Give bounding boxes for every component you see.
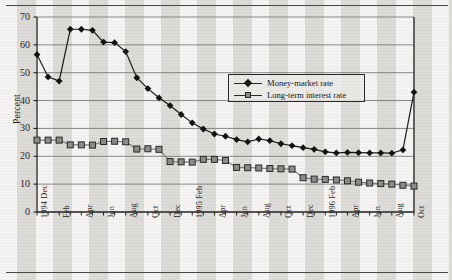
x-axis-tick-label: Oct <box>284 206 293 218</box>
y-axis-tick-label: 70 <box>6 11 30 22</box>
square-marker-icon <box>233 90 263 101</box>
x-axis-tick-label: Dec <box>306 204 315 218</box>
y-axis-tick-label: 10 <box>6 178 30 189</box>
y-axis-tick-label: 60 <box>6 39 30 50</box>
plot-canvas <box>0 0 452 280</box>
x-axis-tick-label: Feb <box>62 205 71 218</box>
x-axis-tick-label: Apr <box>85 205 94 218</box>
x-axis-tick-label: Apr <box>351 205 360 218</box>
x-axis-tick-label: Aug <box>129 203 138 218</box>
legend-label-long-term-interest-rate: Long-term interest rate <box>263 90 346 100</box>
chart-legend: Money-market rate Long-term interest rat… <box>228 74 365 102</box>
legend-label-money-market-rate: Money-market rate <box>263 78 333 88</box>
diamond-marker-icon <box>233 78 263 89</box>
x-axis-tick-label: Dec <box>173 204 182 218</box>
x-axis-tick-label: Aug <box>395 203 404 218</box>
y-axis-tick-label: 0 <box>6 206 30 217</box>
y-axis-tick-label: 40 <box>6 95 30 106</box>
x-axis-tick-label: Oct <box>417 206 426 218</box>
y-axis-tick-label: 20 <box>6 150 30 161</box>
chart-figure: Percent 010203040506070 1994 DecFebAprJu… <box>0 0 452 280</box>
y-axis-tick-label: 30 <box>6 122 30 133</box>
x-axis-tick-label: 1995 Feb <box>195 186 204 218</box>
x-axis-tick-label: Jun <box>107 206 116 218</box>
x-axis-tick-label: 1996 Feb <box>328 186 337 218</box>
legend-item-long-term-interest-rate: Long-term interest rate <box>233 89 360 101</box>
y-axis-tick-label: 50 <box>6 67 30 78</box>
x-axis-tick-label: Oct <box>151 206 160 218</box>
legend-item-money-market-rate: Money-market rate <box>233 77 360 89</box>
x-axis-tick-label: Apr <box>218 205 227 218</box>
x-axis-tick-label: 1994 Dec <box>40 185 49 218</box>
x-axis-tick-label: Jun <box>373 206 382 218</box>
x-axis-tick-label: Aug <box>262 203 271 218</box>
x-axis-tick-label: Jun <box>240 206 249 218</box>
